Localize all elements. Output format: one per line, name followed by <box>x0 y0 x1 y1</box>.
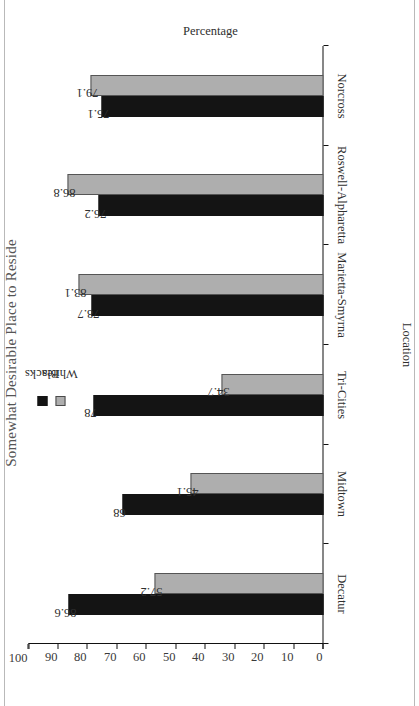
bar-value-label: 79.1 <box>76 85 98 100</box>
bar-blacks[interactable]: 68 <box>122 495 323 516</box>
bar-value-label: 68 <box>113 505 126 520</box>
bar-value-label: 86.6 <box>54 605 76 620</box>
bar-whites[interactable]: 86.8 <box>67 174 323 195</box>
bar-group: 7834.7 <box>28 345 323 445</box>
category-label-cell: Marietta-Smyrna <box>327 245 389 345</box>
bar-value-label: 86.8 <box>53 185 75 200</box>
plot-area: 0102030405060708090100 86.657.26845.1783… <box>28 46 323 644</box>
category-label-cell: Roswell-Alpharetta <box>327 146 389 246</box>
bar-blacks[interactable]: 78.7 <box>91 295 323 316</box>
bar-value-label: 34.7 <box>207 384 229 399</box>
category-tick-labels: DecaturMidtownTri-CitiesMarietta-SmyrnaR… <box>327 46 389 644</box>
bar-group: 76.286.8 <box>28 146 323 246</box>
category-label: Midtown <box>333 472 348 518</box>
bar-group: 86.657.2 <box>28 544 323 644</box>
bar-value-label: 78 <box>84 405 97 420</box>
value-tick-label: 40 <box>192 651 205 666</box>
category-label-cell: Tri-Cities <box>327 345 389 445</box>
value-tick: 10 <box>293 644 294 649</box>
value-tick-label: 20 <box>251 651 264 666</box>
value-tick-label: 90 <box>44 651 57 666</box>
category-label-cell: Norcross <box>327 46 389 146</box>
value-tick-label: 80 <box>74 651 87 666</box>
value-axis-title: Percentage <box>182 24 237 39</box>
bar-whites[interactable]: 45.1 <box>190 474 323 495</box>
bar-blacks[interactable]: 76.2 <box>98 195 323 216</box>
category-label: Roswell-Alpharetta <box>333 147 348 245</box>
bar-group: 75.179.1 <box>28 46 323 146</box>
bar-blacks[interactable]: 86.6 <box>68 594 323 615</box>
bar-whites[interactable]: 34.7 <box>221 374 323 395</box>
value-tick: 60 <box>145 644 146 649</box>
value-tick: 80 <box>86 644 87 649</box>
bar-group: 6845.1 <box>28 445 323 545</box>
value-tick: 20 <box>263 644 264 649</box>
value-tick: 70 <box>116 644 117 649</box>
bar-value-label: 75.1 <box>88 106 110 121</box>
rotated-chart-canvas: Somewhat Desirable Place to Reside Black… <box>0 0 419 706</box>
chart-page: Somewhat Desirable Place to Reside Black… <box>0 0 419 706</box>
category-label-cell: Decatur <box>327 544 389 644</box>
value-tick-label: 70 <box>103 651 116 666</box>
bar-whites[interactable]: 57.2 <box>154 573 323 594</box>
bar-value-label: 57.2 <box>140 584 162 599</box>
value-tick-label: 30 <box>221 651 234 666</box>
value-tick: 40 <box>204 644 205 649</box>
value-tick: 90 <box>57 644 58 649</box>
bar-value-label: 83.1 <box>64 285 86 300</box>
value-tick: 50 <box>175 644 176 649</box>
value-tick-label: 100 <box>8 651 27 666</box>
value-tick-label: 10 <box>280 651 293 666</box>
value-tick-label: 60 <box>133 651 146 666</box>
category-label: Marietta-Smyrna <box>333 252 348 337</box>
value-tick: 30 <box>234 644 235 649</box>
bar-value-label: 78.7 <box>77 306 99 321</box>
bar-value-label: 76.2 <box>84 206 106 221</box>
category-label: Decatur <box>333 574 348 614</box>
category-label: Tri-Cities <box>333 371 348 419</box>
chart-title: Somewhat Desirable Place to Reside <box>2 0 19 706</box>
category-axis-title: Location <box>398 46 413 644</box>
value-tick: 0 <box>322 644 323 649</box>
bar-blacks[interactable]: 75.1 <box>101 96 323 117</box>
category-label-cell: Midtown <box>327 445 389 545</box>
bar-whites[interactable]: 79.1 <box>90 75 323 96</box>
bar-value-label: 45.1 <box>176 484 198 499</box>
bar-whites[interactable]: 83.1 <box>78 274 323 295</box>
value-tick-label: 0 <box>316 651 322 666</box>
value-tick-label: 50 <box>162 651 175 666</box>
bar-group: 78.783.1 <box>28 245 323 345</box>
bar-groups: 86.657.26845.17834.778.783.176.286.875.1… <box>28 46 323 644</box>
value-tick: 100 <box>27 644 28 649</box>
category-label: Norcross <box>333 73 348 118</box>
